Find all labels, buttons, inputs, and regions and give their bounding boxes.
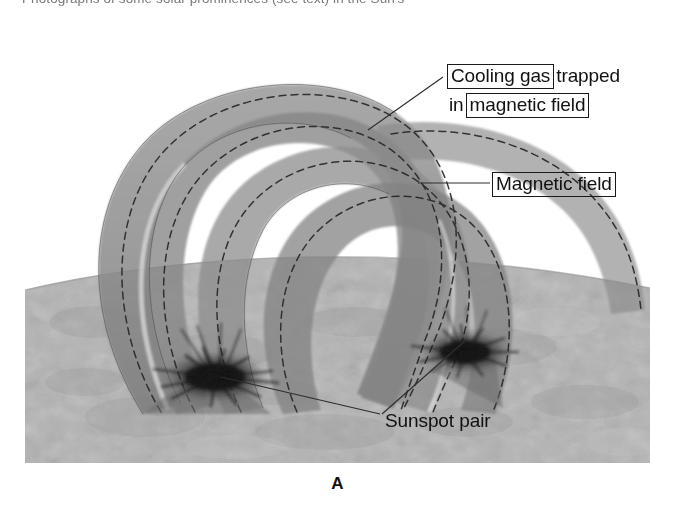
panel-letter-label: A [0,474,675,494]
annotation-cooling-gas-boxed: Cooling gas [447,64,554,89]
annotation-cooling-gas: Cooling gastrapped inmagnetic field [447,64,622,118]
annotation-cooling-gas-plain: trapped [554,65,622,88]
annotation-cooling-gas-line2-prefix: in [447,94,466,117]
annotation-magnetic-field-boxed: Magnetic field [492,172,616,197]
annotation-magnetic-field: Magnetic field [492,172,616,197]
annotation-cooling-gas-line2-boxed: magnetic field [466,93,590,118]
annotation-sunspot-pair-text: Sunspot pair [383,410,492,433]
annotation-sunspot-pair: Sunspot pair [383,410,492,433]
top-caption-text: Photographs of some solar prominences (s… [22,0,662,7]
